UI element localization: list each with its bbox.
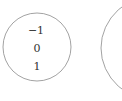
diagram-canvas: −1 0 1 bbox=[0, 0, 122, 101]
left-set-element-2: 1 bbox=[34, 60, 41, 73]
left-set-element-1: 0 bbox=[34, 42, 41, 55]
right-set bbox=[101, 0, 122, 101]
right-set-ellipse bbox=[101, 0, 122, 101]
left-set: −1 0 1 bbox=[3, 13, 71, 81]
left-set-element-0: −1 bbox=[28, 24, 44, 37]
